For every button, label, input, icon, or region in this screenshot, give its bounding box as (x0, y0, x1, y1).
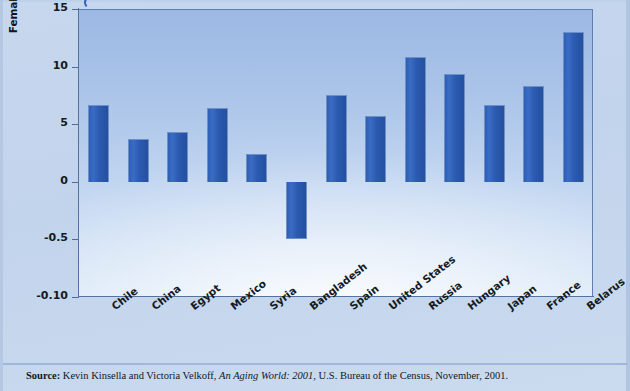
x-axis-label-wrap: Spain (347, 302, 355, 312)
x-axis-label-wrap: Syria (267, 302, 275, 312)
x-axis-label-wrap: Mexico (228, 302, 236, 312)
bar (128, 139, 149, 182)
x-axis-label-wrap: China (149, 302, 157, 312)
source-note: Source: Kevin Kinsella and Victoria Velk… (26, 370, 508, 381)
source-title: An Aging World: 2001 (219, 370, 313, 381)
bar (365, 116, 386, 182)
figure-page: Female Advantage in Life Expectancy at B… (0, 0, 630, 391)
bar (523, 86, 544, 182)
x-axis-label-wrap: Belarus (584, 302, 592, 312)
x-axis-label-wrap: Chile (109, 302, 117, 312)
y-tick (72, 297, 78, 298)
y-tick-label: 0 (8, 174, 68, 187)
bar (88, 105, 109, 182)
scan-artifact-icon (84, 0, 97, 9)
y-tick-label: -0.5 (8, 231, 68, 244)
y-tick (72, 124, 78, 125)
bar (167, 132, 188, 182)
y-tick (72, 182, 78, 183)
x-axis-label-wrap: France (544, 302, 552, 312)
x-axis-label-wrap: Hungary (465, 302, 473, 312)
x-axis-label-wrap: Egypt (188, 302, 196, 312)
page-edge-right (626, 0, 630, 391)
x-axis-label-wrap: Bangladesh (307, 302, 315, 312)
y-tick-label: 10 (8, 59, 68, 72)
bar (484, 105, 505, 182)
bar (405, 57, 426, 181)
y-tick (72, 9, 78, 10)
x-axis-label-wrap: United States (386, 302, 394, 312)
bar (326, 95, 347, 181)
x-axis-label-wrap: Japan (505, 302, 513, 312)
bar (286, 182, 307, 240)
y-axis-line (78, 8, 79, 298)
y-axis-title-wrap: Female Advantage in Life Expectancy at B… (0, 0, 26, 310)
y-tick-label: -0.10 (8, 289, 68, 302)
source-authors: Kevin Kinsella and Victoria Velkoff, (60, 370, 219, 381)
y-tick-label: 5 (8, 116, 68, 129)
bar (207, 108, 228, 182)
bar (246, 154, 267, 182)
x-axis-label-wrap: Russia (426, 302, 434, 312)
source-label: Source: (26, 370, 60, 381)
source-publisher: , U.S. Bureau of the Census, November, 2… (313, 370, 508, 381)
footer-divider (3, 363, 627, 365)
y-tick (72, 239, 78, 240)
bar (563, 32, 584, 182)
y-tick-label: 15 (8, 1, 68, 14)
y-tick (72, 67, 78, 68)
bar (444, 74, 465, 182)
